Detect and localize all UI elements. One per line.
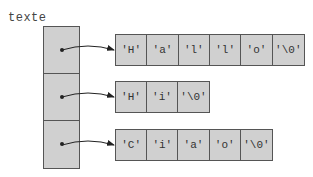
arrow-1 [62,93,114,97]
char-cell: 'H' [116,82,147,112]
char-cell: 'i' [147,130,178,160]
char-cell: 'a' [147,35,178,65]
char-array-2: 'C' 'i' 'a' 'o' '\0' [115,129,273,161]
arrow-0 [62,46,114,50]
char-cell: '\0' [241,130,272,160]
char-cell: '\0' [273,35,304,65]
char-cell: 'l' [210,35,241,65]
char-cell: 'o' [241,35,272,65]
char-cell: 'C' [116,130,147,160]
char-cell: 'o' [210,130,241,160]
char-cell: '\0' [178,82,209,112]
char-cell: 'H' [116,35,147,65]
char-array-0: 'H' 'a' 'l' 'l' 'o' '\0' [115,34,305,66]
char-cell: 'a' [178,130,209,160]
char-cell: 'i' [147,82,178,112]
char-cell: 'l' [179,35,210,65]
arrow-2 [62,141,114,145]
char-array-1: 'H' 'i' '\0' [115,81,210,113]
